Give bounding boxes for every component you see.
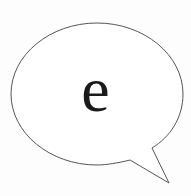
speech-bubble-canvas: e	[0, 0, 191, 196]
bubble-letter: e	[0, 58, 191, 122]
